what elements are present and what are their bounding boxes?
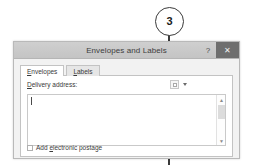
- dialog-body: Envelopes Labels Delivery address: ▲ ▼: [14, 59, 239, 158]
- tab-envelopes-label: Envelopes: [27, 68, 57, 75]
- delivery-address-box: ▲ ▼: [27, 94, 226, 146]
- envelopes-and-labels-dialog: Envelopes and Labels ? ✕ Envelopes Label…: [13, 41, 240, 159]
- address-scrollbar[interactable]: ▲ ▼: [216, 95, 225, 145]
- callout-badge-3: 3: [155, 7, 184, 36]
- delivery-address-input[interactable]: [28, 95, 216, 145]
- close-icon[interactable]: ✕: [216, 42, 239, 58]
- scrollbar-thumb[interactable]: [218, 105, 225, 119]
- tabstrip: Envelopes Labels: [20, 64, 233, 76]
- add-electronic-postage-checkbox[interactable]: Add electronic postage: [27, 144, 102, 151]
- dialog-title: Envelopes and Labels: [86, 46, 167, 55]
- delivery-address-label: Delivery address:: [27, 81, 77, 88]
- envelopes-tab-panel: Delivery address: ▲ ▼ Add electronic pos…: [20, 75, 233, 157]
- add-electronic-postage-label: Add electronic postage: [36, 144, 102, 151]
- tab-labels[interactable]: Labels: [66, 65, 99, 76]
- scroll-up-icon[interactable]: ▲: [217, 95, 226, 104]
- chevron-down-icon[interactable]: [183, 83, 187, 86]
- help-icon[interactable]: ?: [200, 42, 216, 58]
- callout-badge-number: 3: [166, 16, 172, 27]
- window-buttons: ? ✕: [200, 42, 239, 58]
- text-caret: [31, 97, 32, 105]
- delivery-address-row: Delivery address:: [27, 81, 226, 92]
- scroll-down-icon[interactable]: ▼: [217, 136, 226, 145]
- tab-envelopes[interactable]: Envelopes: [20, 65, 64, 76]
- address-book-icon[interactable]: [170, 80, 179, 89]
- tab-labels-label: Labels: [73, 68, 92, 75]
- dialog-titlebar[interactable]: Envelopes and Labels ? ✕: [14, 42, 239, 59]
- checkbox-box[interactable]: [27, 145, 33, 151]
